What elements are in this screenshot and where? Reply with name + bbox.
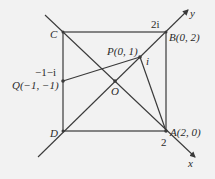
label-q: Q(−1, −1) [12, 79, 59, 92]
coordinate-diagram: C 2i B(0, 2) y P(0, 1) i −1−i Q(−1, −1) … [0, 0, 215, 179]
label-d: D [49, 127, 58, 139]
point-o [113, 79, 117, 83]
label-2i: 2i [151, 18, 160, 30]
label-c: C [50, 28, 58, 40]
label-2: 2 [161, 136, 167, 148]
segment-pa [140, 57, 166, 131]
label-b: B(0, 2) [169, 31, 200, 44]
label-p: P(0, 1) [106, 45, 138, 58]
point-d [62, 130, 65, 133]
label-minus-1-minus-i: −1−i [35, 66, 56, 78]
axis-label-y: y [189, 7, 195, 19]
label-a: A(2, 0) [169, 126, 201, 139]
label-o: O [111, 85, 119, 97]
point-c [62, 31, 65, 34]
point-q [61, 79, 65, 83]
point-a [164, 129, 168, 133]
label-i: i [146, 55, 149, 67]
axis-label-x: x [187, 157, 193, 169]
point-b [165, 31, 168, 34]
point-p [138, 55, 142, 59]
